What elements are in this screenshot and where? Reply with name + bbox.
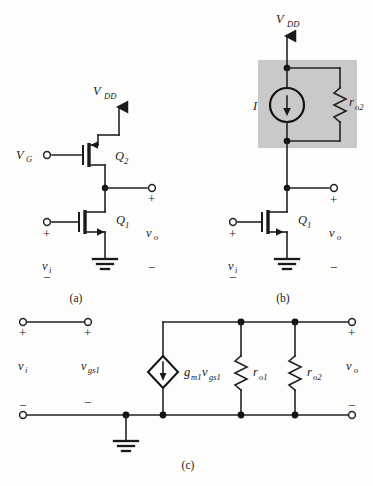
circuit-a-output-minus: − bbox=[148, 260, 155, 275]
circuit-c-depv-subscript: gs1 bbox=[209, 372, 221, 382]
circuit-c-dep-src-bottom-node bbox=[160, 412, 167, 419]
circuit-c-depv-label: v bbox=[202, 365, 208, 379]
circuit-c-vo-subscript: o bbox=[354, 365, 358, 375]
circuit-c-ro2-label: r bbox=[307, 365, 312, 379]
circuit-a-vo-subscript: o bbox=[154, 232, 158, 242]
circuit-b-ro2-subscript: o2 bbox=[355, 102, 364, 112]
circuit-a-input-minus: − bbox=[43, 270, 50, 285]
circuit-c-vgs-subscript: gs1 bbox=[88, 365, 100, 375]
circuit-c-vi-plus: + bbox=[19, 325, 26, 340]
caption-c: (c) bbox=[182, 459, 195, 472]
circuit-b-input-minus: − bbox=[229, 270, 236, 285]
circuit-c-vi-minus: − bbox=[19, 398, 26, 413]
circuit-b-current-label: I bbox=[252, 99, 258, 113]
circuit-c-ro2-bottom-node bbox=[292, 412, 299, 419]
circuit-c-gm-subscript: m1 bbox=[191, 372, 201, 382]
circuit-b-vdd-subscript: DD bbox=[286, 19, 300, 29]
circuit-b-output-plus: + bbox=[330, 192, 337, 207]
circuit-b-output-terminal[interactable] bbox=[331, 185, 338, 192]
circuit-c-input-terminal-bottom[interactable] bbox=[20, 412, 27, 419]
circuit-b-input-terminal[interactable] bbox=[230, 219, 237, 226]
circuit-a-input-plus: + bbox=[43, 226, 50, 241]
circuit-b-shaded-load-region bbox=[258, 60, 357, 148]
circuit-b-output-minus: − bbox=[330, 260, 337, 275]
circuit-a-output-plus: + bbox=[148, 191, 155, 206]
circuit-b-vo-subscript: o bbox=[337, 232, 341, 242]
circuit-b-input-plus: + bbox=[229, 226, 236, 241]
circuit-c-vgs-label: v bbox=[81, 359, 87, 373]
circuit-b-q1-subscript: 1 bbox=[307, 220, 311, 230]
circuit-c-vo-minus: − bbox=[348, 398, 355, 413]
circuit-a-q1-subscript: 1 bbox=[125, 220, 129, 230]
circuit-a-q1-label: Q bbox=[116, 213, 125, 227]
circuit-b-vo-label: v bbox=[329, 226, 335, 240]
circuit-a-vg-subscript: G bbox=[26, 154, 32, 164]
circuit-c-ro1-subscript: o1 bbox=[259, 372, 268, 382]
circuit-a-input-terminal[interactable] bbox=[44, 219, 51, 226]
figure-container: V DD V G Q 2 bbox=[0, 0, 373, 486]
circuit-a-vg-terminal[interactable] bbox=[44, 152, 51, 159]
circuit-a-vo-label: v bbox=[146, 226, 152, 240]
circuit-c-gm-label: g bbox=[184, 365, 190, 379]
circuit-b-q1-label: Q bbox=[298, 213, 307, 227]
circuit-figure-svg: V DD V G Q 2 bbox=[0, 0, 373, 486]
caption-a: (a) bbox=[70, 292, 83, 305]
circuit-c-vi-label: v bbox=[18, 359, 24, 373]
circuit-c-ro2-subscript: o2 bbox=[313, 372, 322, 382]
circuit-c-ro1-bottom-node bbox=[238, 412, 245, 419]
circuit-b-ro2-label: r bbox=[349, 95, 354, 109]
circuit-c-vo-label: v bbox=[346, 359, 352, 373]
circuit-a-q2-label: Q bbox=[115, 149, 124, 163]
circuit-c-vgs-plus: + bbox=[84, 325, 91, 340]
circuit-a-vdd-subscript: DD bbox=[103, 91, 117, 101]
circuit-c-vgs-minus: − bbox=[84, 395, 91, 410]
circuit-c-vo-plus: + bbox=[348, 325, 355, 340]
circuit-c-ro1-label: r bbox=[253, 365, 258, 379]
caption-b: (b) bbox=[276, 292, 290, 305]
